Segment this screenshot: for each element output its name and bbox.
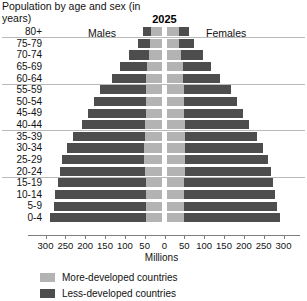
bar-segment-females-less-developed [183,74,219,83]
pyramid-row: 75-79 [0,38,307,50]
bar-segment-females-less-developed [185,120,250,129]
bar-segment-males-more-developed [150,39,162,48]
bar-segment-females-more-developed [167,178,184,187]
bar-segment-females-less-developed [179,27,189,36]
bar-segment-females-more-developed [167,39,180,48]
bar-segment-males-more-developed [145,120,162,129]
x-axis-tick [284,235,285,239]
bar-segment-males-more-developed [146,178,163,187]
pyramid-row: 0-4 [0,212,307,224]
x-axis-tick [105,235,106,239]
bar-group [0,189,307,201]
legend-swatch-more-developed [40,273,55,282]
x-axis-tick [224,235,225,239]
bar-segment-females-more-developed [167,213,184,222]
legend-swatch-less-developed [40,289,55,298]
bar-segment-males-more-developed [146,109,163,118]
bar-segment-males-more-developed [146,190,163,199]
pyramid-row: 25-29 [0,154,307,166]
pyramid-row: 45-49 [0,107,307,119]
pyramid-row: 35-39 [0,131,307,143]
bar-segment-females-less-developed [184,190,275,199]
bar-segment-males-more-developed [146,213,163,222]
bar-group [0,73,307,85]
pyramid-row: 5-9 [0,200,307,212]
bar-segment-females-less-developed [184,213,280,222]
bar-group [0,38,307,50]
bar-group [0,212,307,224]
x-axis-tick [204,235,205,239]
legend-item-less-developed: Less-developed countries [40,287,280,301]
legend: More-developed countries Less-developed … [40,271,280,301]
bar-segment-males-less-developed [54,202,146,211]
x-axis-tick [145,235,146,239]
bar-segment-females-less-developed [184,109,243,118]
pyramid-row: 20-24 [0,166,307,178]
pyramid-row: 80+ [0,26,307,38]
bar-segment-males-more-developed [144,143,162,152]
bar-segment-males-less-developed [120,62,147,71]
bar-group [0,119,307,131]
bar-segment-females-more-developed [167,202,184,211]
pyramid-row: 15-19 [0,177,307,189]
bar-segment-females-less-developed [181,50,203,59]
bar-segment-females-less-developed [179,39,194,48]
bar-segment-males-more-developed [146,74,162,83]
bar-segment-females-more-developed [167,85,184,94]
bar-group [0,49,307,61]
pyramid-row: 55-59 [0,84,307,96]
x-axis-tick [184,235,185,239]
bar-segment-females-less-developed [185,143,263,152]
bar-group [0,177,307,189]
bar-segment-females-less-developed [184,97,237,106]
bar-segment-males-less-developed [143,27,151,36]
bar-segment-males-less-developed [100,85,146,94]
bar-segment-males-less-developed [67,143,144,152]
bar-segment-females-more-developed [167,190,184,199]
bar-segment-females-more-developed [167,109,184,118]
bar-segment-females-less-developed [183,62,212,71]
bar-segment-males-more-developed [151,27,162,36]
bar-segment-males-more-developed [146,97,163,106]
pyramid-row: 10-14 [0,189,307,201]
bar-segment-males-more-developed [149,50,162,59]
chart-year-value: 2025 [152,13,176,25]
bar-group [0,107,307,119]
bar-segment-females-less-developed [185,132,257,141]
bar-segment-females-less-developed [184,178,273,187]
bar-group [0,142,307,154]
bar-segment-males-more-developed [145,132,162,141]
pyramid-row: 65-69 [0,61,307,73]
x-axis-title: Millions [0,252,307,263]
pyramid-row: 40-44 [0,119,307,131]
bar-segment-males-less-developed [55,190,145,199]
bar-segment-males-less-developed [58,178,146,187]
bar-segment-females-more-developed [167,132,185,141]
bar-segment-males-less-developed [73,132,144,141]
bar-segment-males-less-developed [62,155,145,164]
bar-segment-males-more-developed [147,62,162,71]
bar-segment-males-more-developed [146,85,163,94]
bar-segment-males-more-developed [146,202,163,211]
bar-segment-females-more-developed [167,27,179,36]
legend-label-less-developed: Less-developed countries [62,287,176,300]
bar-group [0,154,307,166]
x-axis-tick [125,235,126,239]
bar-segment-females-more-developed [167,155,185,164]
x-axis-tick [46,235,47,239]
pyramid-row: 60-64 [0,73,307,85]
bar-segment-males-less-developed [129,50,149,59]
population-pyramid-chart: Population by age and sex (in years) 202… [0,0,307,301]
bar-segment-females-more-developed [167,62,183,71]
x-axis-tick-label: 300 [269,240,299,251]
bar-group [0,200,307,212]
bar-group [0,131,307,143]
bar-segment-females-less-developed [184,202,277,211]
bar-segment-males-less-developed [82,120,145,129]
bar-segment-males-more-developed [144,155,162,164]
bar-segment-females-more-developed [167,167,185,176]
legend-item-more-developed: More-developed countries [40,271,280,285]
x-axis-tick [244,235,245,239]
x-axis-tick [165,235,166,239]
bar-segment-females-more-developed [167,50,181,59]
